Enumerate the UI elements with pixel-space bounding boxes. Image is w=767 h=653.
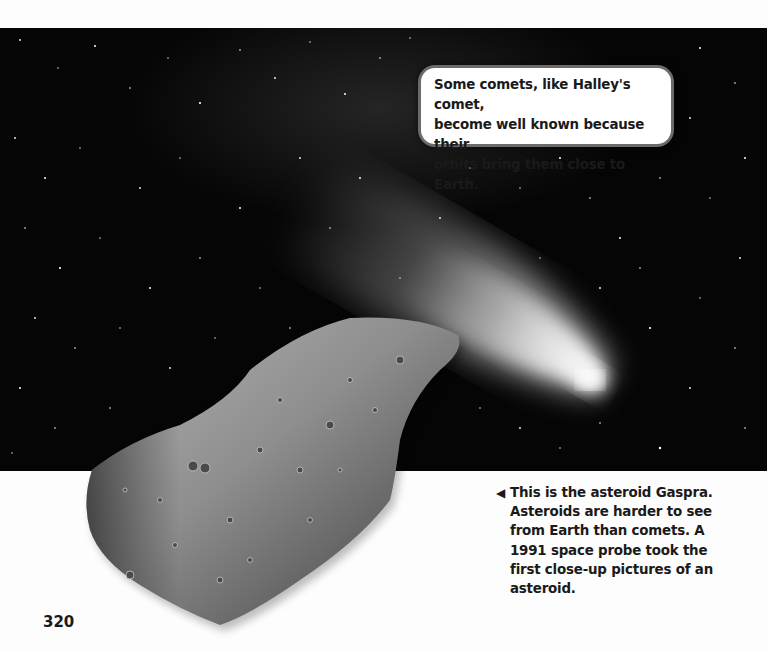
asteroid-caption: This is the asteroid Gaspra. Asteroids a… <box>510 483 745 598</box>
callout-line: Some comets, like Halley's comet, <box>434 75 661 115</box>
caption-pointer-icon: ◀ <box>496 486 505 500</box>
textbook-page: Some comets, like Halley's comet, become… <box>0 0 767 653</box>
callout-halleys-comet: Some comets, like Halley's comet, become… <box>421 68 671 144</box>
caption-line: first close-up pictures of an <box>510 560 745 579</box>
caption-line: Asteroids are harder to see <box>510 502 745 521</box>
caption-line: 1991 space probe took the <box>510 541 745 560</box>
caption-line: asteroid. <box>510 579 745 598</box>
caption-line: This is the asteroid Gaspra. <box>510 483 745 502</box>
callout-line: orbits bring them close to Earth. <box>434 155 661 195</box>
callout-line: become well known because their <box>434 115 661 155</box>
page-number: 320 <box>43 613 74 631</box>
caption-line: from Earth than comets. A <box>510 521 745 540</box>
